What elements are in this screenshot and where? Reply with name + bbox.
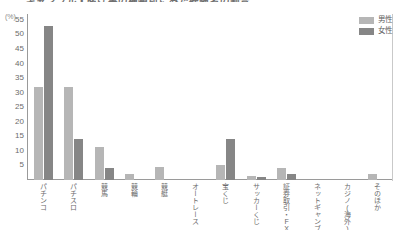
bar-group xyxy=(180,14,210,180)
x-axis-label: そのほか xyxy=(374,183,382,211)
chart-container: ギャンブル・賭け事の種類別にみた経験者の割合 (%) 5550454035302… xyxy=(0,0,401,230)
x-axis-label: オートレース xyxy=(191,183,199,225)
bar xyxy=(125,174,134,180)
y-axis-tick-label: 20 xyxy=(0,118,24,126)
bar-group xyxy=(211,14,241,180)
bar-group xyxy=(363,14,393,180)
legend-swatch-icon xyxy=(359,17,374,24)
y-axis-tick-label: 30 xyxy=(0,89,24,97)
x-axis-label: 競輪 xyxy=(130,183,138,197)
legend-swatch-icon xyxy=(359,28,374,35)
bar xyxy=(257,177,266,180)
bar-group xyxy=(58,14,88,180)
legend-label: 男性 xyxy=(378,16,392,24)
bars-layer xyxy=(28,14,393,180)
y-axis-tick-label: 15 xyxy=(0,132,24,140)
bar xyxy=(226,139,235,180)
bar xyxy=(64,87,73,180)
bar xyxy=(287,174,296,180)
y-axis-tick-label: 25 xyxy=(0,103,24,111)
legend-label: 女性 xyxy=(378,27,392,35)
x-axis-label: 競艇 xyxy=(161,183,169,197)
y-axis-tick-label: 45 xyxy=(0,45,24,53)
y-axis-tick-label: 10 xyxy=(0,147,24,155)
x-axis-label: カジノ(海外) xyxy=(343,183,351,230)
bar xyxy=(105,168,114,180)
chart-legend: 男性女性 xyxy=(359,16,392,35)
bar xyxy=(44,26,53,180)
bar-group xyxy=(119,14,149,180)
x-axis-label: ネットギャンブル xyxy=(313,183,321,230)
x-axis-label: サッカーくじ xyxy=(252,183,260,225)
x-axis-label: パチンコ xyxy=(39,183,47,211)
legend-item[interactable]: 女性 xyxy=(359,27,392,35)
bar-group xyxy=(302,14,332,180)
bar-group xyxy=(332,14,362,180)
bar-group xyxy=(150,14,180,180)
legend-item[interactable]: 男性 xyxy=(359,16,392,24)
bar-group xyxy=(241,14,271,180)
bar-group xyxy=(271,14,301,180)
x-axis-label: 競馬 xyxy=(100,183,108,197)
bar xyxy=(155,167,164,180)
y-axis-tick-label: 5 xyxy=(0,161,24,169)
y-axis-tick-label: 40 xyxy=(0,60,24,68)
bar xyxy=(74,139,83,180)
bar xyxy=(216,165,225,180)
bar xyxy=(34,87,43,180)
x-axis-labels: パチンコパチスロ競馬競輪競艇オートレース宝くじサッカーくじ証券取引・FXネットギ… xyxy=(28,183,393,230)
chart-title: ギャンブル・賭け事の種類別にみた経験者の割合 xyxy=(26,0,250,2)
y-axis-tick-label: 50 xyxy=(0,30,24,38)
bar xyxy=(277,168,286,180)
y-axis-tick-label: 55 xyxy=(0,16,24,24)
bar xyxy=(368,174,377,180)
bar xyxy=(95,147,104,180)
x-axis-label: 宝くじ xyxy=(222,183,230,204)
bar-group xyxy=(89,14,119,180)
y-axis-tick-label: 35 xyxy=(0,74,24,82)
bar xyxy=(247,176,256,180)
x-axis-label: パチスロ xyxy=(70,183,78,211)
bar-group xyxy=(28,14,58,180)
x-axis-label: 証券取引・FX xyxy=(283,183,291,230)
